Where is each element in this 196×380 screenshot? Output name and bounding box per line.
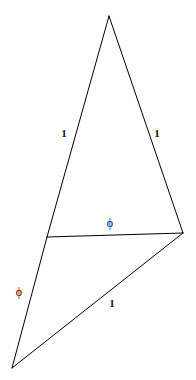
label-bottom-one: 1: [109, 298, 115, 309]
edge-bottom-left-to-right: [12, 233, 183, 368]
golden-ratio-triangle-diagram: 1 1 ϕ ϕ 1: [0, 0, 196, 380]
edge-mid-left-to-bottom-left: [12, 237, 47, 368]
label-right-side-one: 1: [154, 128, 160, 139]
edge-apex-to-mid-left: [47, 16, 109, 237]
edge-apex-to-right: [109, 16, 183, 233]
label-base-phi: ϕ: [107, 217, 113, 229]
edge-mid-left-to-right: [47, 233, 183, 237]
label-left-side-one: 1: [61, 128, 67, 139]
label-lower-left-phi: ϕ: [16, 286, 22, 298]
diagram-canvas: [0, 0, 196, 380]
